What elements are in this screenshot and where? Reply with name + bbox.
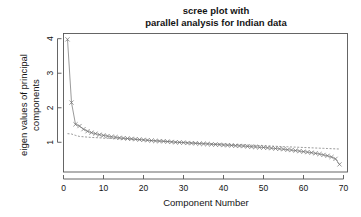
scree-plot-svg: scree plot with parallel analysis for In… — [0, 0, 361, 217]
x-tick-label: 70 — [339, 183, 349, 193]
chart-title-line-1: scree plot with — [183, 5, 250, 16]
y-tick-label: 2 — [45, 105, 55, 110]
x-tick-label: 0 — [61, 183, 66, 193]
y-tick-label: 4 — [45, 36, 55, 41]
chart-title-line-2: parallel analysis for Indian data — [145, 17, 287, 28]
x-tick-label: 50 — [259, 183, 269, 193]
x-axis-label: Component Number — [163, 197, 249, 208]
scree-plot-figure: scree plot with parallel analysis for In… — [0, 0, 361, 217]
x-tick-label: 10 — [99, 183, 109, 193]
y-axis-label-line-1: eigen values of principal — [18, 54, 29, 156]
y-axis-label-line-2: components — [30, 79, 41, 131]
x-tick-label: 30 — [179, 183, 189, 193]
y-tick-label: 3 — [45, 71, 55, 76]
x-tick-label: 40 — [219, 183, 229, 193]
x-tick-label: 60 — [299, 183, 309, 193]
x-tick-label: 20 — [139, 183, 149, 193]
y-tick-label: 1 — [45, 140, 55, 145]
